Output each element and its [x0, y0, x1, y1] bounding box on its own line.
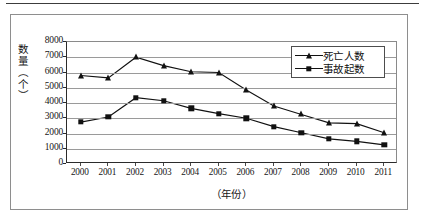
triangle-marker-icon: [295, 50, 323, 62]
gridline: [67, 149, 396, 150]
gridline: [67, 118, 396, 119]
data-point-marker: [133, 54, 139, 60]
x-axis-tick-label: 2003: [154, 167, 172, 177]
y-axis-tick-mark: [63, 102, 66, 103]
x-axis-tick-mark: [300, 163, 301, 166]
data-point-marker: [354, 120, 360, 126]
y-axis-tick-mark: [63, 133, 66, 134]
data-point-marker: [382, 142, 387, 147]
x-axis-tick-label: 2000: [71, 167, 89, 177]
data-point-marker: [326, 136, 331, 141]
x-axis-tick-mark: [245, 163, 246, 166]
y-axis-tick-mark: [63, 163, 66, 164]
page-top-rule: [6, 3, 419, 4]
data-point-marker: [188, 106, 193, 111]
chart-legend: 死亡人数 事故起数: [291, 46, 385, 78]
data-point-marker: [161, 98, 166, 103]
x-axis-tick-label: 2006: [236, 167, 254, 177]
gridline: [67, 134, 396, 135]
data-point-marker: [78, 119, 83, 124]
y-axis-tick-mark: [63, 148, 66, 149]
data-point-marker: [299, 130, 304, 135]
data-point-marker: [381, 129, 387, 135]
x-axis-tick-label: 2009: [319, 167, 337, 177]
chart-page: 数量（个） 010002000300040005000600070008000 …: [0, 0, 425, 224]
legend-item-accidents: 事故起数: [295, 62, 381, 75]
x-axis-tick-label: 2007: [264, 167, 282, 177]
y-axis-tick-mark: [63, 56, 66, 57]
x-axis-tick-label: 2002: [126, 167, 144, 177]
y-axis-tick-label: 3000: [45, 112, 63, 122]
series-line-accidents: [81, 98, 384, 145]
x-axis-tick-mark: [218, 163, 219, 166]
data-point-marker: [106, 114, 111, 119]
legend-item-deaths: 死亡人数: [295, 49, 381, 62]
x-axis-tick-mark: [383, 163, 384, 166]
x-axis-tick-mark: [190, 163, 191, 166]
y-axis-tick-label: 2000: [45, 128, 63, 138]
y-axis-tick-label: 1000: [45, 143, 63, 153]
y-axis-tick-mark: [63, 72, 66, 73]
y-axis-tick-labels: 010002000300040005000600070008000: [30, 41, 63, 163]
x-axis-tick-label: 2001: [98, 167, 116, 177]
y-axis-tick-mark: [63, 87, 66, 88]
data-point-marker: [244, 116, 249, 121]
data-point-marker: [216, 69, 222, 75]
data-point-marker: [326, 119, 332, 125]
y-axis-tick-label: 4000: [45, 97, 63, 107]
data-point-marker: [188, 68, 194, 74]
x-axis-tick-mark: [80, 163, 81, 166]
gridline: [67, 103, 396, 104]
y-axis-tick-label: 6000: [45, 67, 63, 77]
y-axis-tick-label: 7000: [45, 51, 63, 61]
data-point-marker: [243, 87, 249, 93]
y-axis-tick-mark: [63, 41, 66, 42]
x-axis-tick-label: 2004: [181, 167, 199, 177]
gridline: [67, 88, 396, 89]
x-axis-tick-mark: [356, 163, 357, 166]
x-axis-tick-mark: [328, 163, 329, 166]
x-axis-tick-mark: [273, 163, 274, 166]
data-point-marker: [78, 72, 84, 78]
legend-label-deaths: 死亡人数: [323, 50, 365, 62]
y-axis-tick-mark: [63, 117, 66, 118]
x-axis-tick-label: 2011: [374, 167, 391, 177]
data-point-marker: [216, 111, 221, 116]
y-axis-tick-label: 5000: [45, 82, 63, 92]
data-point-marker: [271, 103, 277, 109]
x-axis-tick-mark: [135, 163, 136, 166]
data-point-marker: [298, 111, 304, 117]
x-axis-tick-label: 2008: [292, 167, 310, 177]
data-point-marker: [354, 139, 359, 144]
data-point-marker: [271, 124, 276, 129]
square-marker-icon: [295, 63, 323, 75]
x-axis-tick-label: 2005: [209, 167, 227, 177]
legend-label-accidents: 事故起数: [323, 63, 365, 75]
x-axis-title: （年份）: [66, 186, 397, 201]
data-point-marker: [133, 95, 138, 100]
y-axis-tick-label: 8000: [45, 36, 63, 46]
x-axis-tick-label: 2010: [347, 167, 365, 177]
data-point-marker: [105, 74, 111, 80]
x-axis-tick-mark: [107, 163, 108, 166]
x-axis-tick-mark: [163, 163, 164, 166]
y-axis-title: 数量（个）: [11, 44, 27, 102]
data-point-marker: [161, 62, 167, 68]
